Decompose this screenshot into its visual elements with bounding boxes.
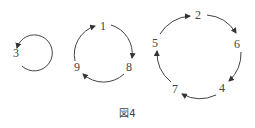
- arrow-5-to-2: [160, 16, 190, 34]
- cycle-a-arrow: [17, 35, 52, 71]
- node-9: 9: [74, 60, 80, 74]
- arrow-7-to-5: [157, 51, 171, 82]
- arrow-9-to-1: [74, 26, 95, 61]
- node-2: 2: [195, 8, 201, 22]
- arrow-4-to-7: [182, 94, 216, 99]
- arrow-2-to-6: [207, 15, 236, 33]
- node-3: 3: [13, 46, 19, 60]
- arrow-8-to-9: [83, 74, 124, 82]
- node-7: 7: [172, 82, 178, 96]
- node-4: 4: [219, 81, 225, 95]
- cycle-a: 3: [13, 35, 52, 71]
- node-5: 5: [152, 36, 158, 50]
- arrow-1-to-8: [111, 25, 132, 58]
- cycle-b: 1 8 9: [74, 19, 132, 82]
- node-1: 1: [100, 19, 106, 33]
- arrow-6-to-4: [229, 52, 241, 81]
- node-6: 6: [234, 37, 240, 51]
- node-8: 8: [126, 60, 132, 74]
- figure-caption: 図4: [0, 105, 255, 120]
- cycle-c: 2 6 4 7 5: [152, 8, 241, 99]
